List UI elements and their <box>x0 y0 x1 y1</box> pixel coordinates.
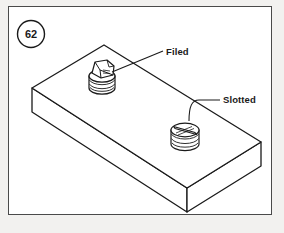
slotted-label: Slotted <box>223 94 256 105</box>
figure-container: 62 <box>0 0 284 233</box>
figure-number-label: 62 <box>25 28 37 40</box>
figure-number-badge: 62 <box>18 21 45 48</box>
slotted-screw <box>171 123 199 150</box>
filed-label: Filed <box>166 46 189 57</box>
technical-illustration: 62 <box>0 0 284 233</box>
plate-block <box>32 45 261 212</box>
filed-screw-slot-remnant-2 <box>103 73 110 74</box>
